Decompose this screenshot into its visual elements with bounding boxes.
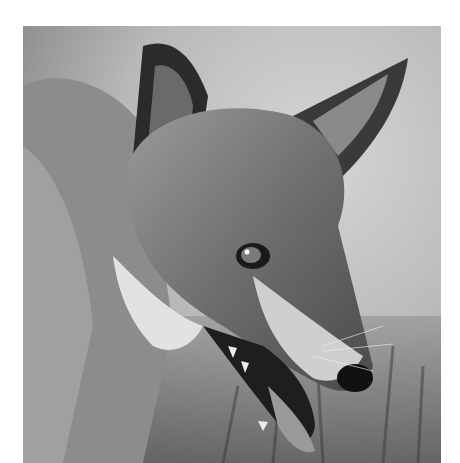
fox-photo (23, 26, 441, 463)
fox-illustration (23, 26, 441, 463)
